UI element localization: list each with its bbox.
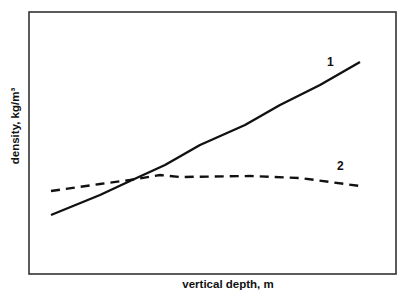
series-2-line [51,175,360,191]
series-2-label: 2 [337,159,344,173]
y-axis-label: density, kg/m³ [9,88,21,165]
density-depth-chart: 1 2 vertical depth, m density, kg/m³ [0,0,411,304]
x-axis-label: vertical depth, m [182,278,273,290]
plot-frame [29,12,396,274]
series-1-label: 1 [327,55,334,69]
series-1-line [51,62,360,215]
